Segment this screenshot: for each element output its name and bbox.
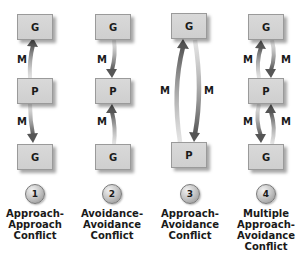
motive-label: M	[17, 116, 27, 127]
motive-label: M	[97, 54, 107, 65]
number-badge: 4	[256, 184, 276, 204]
caption: Approach- Approach Conflict	[0, 208, 73, 241]
motive-label: M	[243, 116, 253, 127]
goal-box: G	[17, 14, 53, 40]
caption-line: Avoidance	[228, 230, 304, 241]
number-badge: 2	[102, 184, 122, 204]
person-box: P	[95, 78, 131, 104]
number-badge: 3	[180, 184, 200, 204]
number-badge: 1	[25, 184, 45, 204]
caption-line: Avoidance	[152, 219, 228, 230]
conflict-types-diagram: G P G M M 1 Approach- Approach Conflict …	[0, 0, 306, 263]
motive-label: M	[204, 85, 214, 96]
goal-box: G	[95, 14, 131, 40]
motive-label: M	[97, 116, 107, 127]
caption-line: Approach-	[0, 208, 73, 219]
goal-box: G	[248, 14, 284, 40]
motive-label: M	[160, 85, 170, 96]
caption-line: Conflict	[74, 230, 150, 241]
caption: Approach- Avoidance Conflict	[152, 208, 228, 241]
caption-line: Avoidance-	[74, 208, 150, 219]
goal-box: G	[171, 13, 207, 39]
caption: Avoidance- Avoidance Conflict	[74, 208, 150, 241]
goal-box: G	[17, 144, 53, 170]
caption-line: Approach	[0, 219, 73, 230]
motive-label: M	[243, 54, 253, 65]
caption-line: Conflict	[0, 230, 73, 241]
col3-arrows	[177, 39, 200, 142]
motive-label: M	[281, 116, 291, 127]
caption-line: Conflict	[228, 241, 304, 252]
person-box: P	[17, 78, 53, 104]
person-box: P	[248, 78, 284, 104]
person-box: P	[171, 142, 207, 168]
motive-label: M	[17, 54, 27, 65]
goal-box: G	[95, 144, 131, 170]
caption-line: Approach-	[152, 208, 228, 219]
caption-line: Avoidance	[74, 219, 150, 230]
caption: Multiple Approach- Avoidance Conflict	[228, 208, 304, 252]
caption-line: Conflict	[152, 230, 228, 241]
goal-box: G	[248, 144, 284, 170]
caption-line: Multiple	[228, 208, 304, 219]
caption-line: Approach-	[228, 219, 304, 230]
motive-label: M	[281, 54, 291, 65]
